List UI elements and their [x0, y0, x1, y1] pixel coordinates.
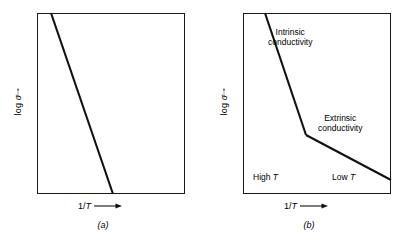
panel-caption-b: (b) — [206, 220, 412, 230]
x-axis-text-b: 1/T — [284, 201, 297, 211]
annotation-intrinsic-conductivity: Intrinsic conductivity — [268, 27, 312, 48]
y-axis-symbol-a: σ — [13, 95, 23, 101]
x-axis-label-b: 1/T — [284, 199, 328, 213]
label-low-temperature-symbol: T — [350, 172, 355, 182]
label-high-temperature-text: High — [253, 172, 273, 182]
annotation-extrinsic-line2: conductivity — [318, 123, 362, 133]
y-axis-prefix-a: log — [13, 100, 23, 115]
annotation-intrinsic-line1: Intrinsic — [268, 27, 312, 37]
panel-b: Intrinsic conductivity Extrinsic conduct… — [206, 0, 412, 246]
label-high-temperature-symbol: T — [273, 172, 278, 182]
panel-caption-a: (a) — [0, 220, 206, 230]
x-axis-prefix-b: 1/ — [284, 201, 292, 211]
curve-a-line — [51, 13, 113, 194]
y-axis-label-a: log σ — [7, 78, 29, 140]
x-axis-prefix-a: 1/ — [78, 201, 86, 211]
annotation-extrinsic-conductivity: Extrinsic conductivity — [318, 113, 362, 134]
label-high-temperature: High T — [253, 172, 278, 182]
curve-b — [243, 13, 391, 194]
annotation-intrinsic-line2: conductivity — [268, 37, 312, 47]
x-axis-arrow-icon-b — [300, 202, 328, 210]
x-axis-symbol-a: T — [86, 201, 92, 211]
y-axis-prefix-b: log — [219, 100, 229, 115]
annotation-extrinsic-line1: Extrinsic — [318, 113, 362, 123]
x-axis-label-a: 1/T — [78, 199, 122, 213]
y-axis-text-b: log σ — [219, 74, 229, 136]
y-axis-label-b: log σ — [213, 78, 235, 140]
label-low-temperature: Low T — [332, 172, 355, 182]
curve-a — [37, 13, 185, 194]
panel-a: log σ 1/T (a) — [0, 0, 206, 246]
label-low-temperature-text: Low — [332, 172, 350, 182]
x-axis-symbol-b: T — [292, 201, 298, 211]
figure-semiconductor-conductivity: log σ 1/T (a) Intrinsic conductivity Ext… — [0, 0, 412, 246]
y-axis-text-a: log σ — [13, 74, 23, 136]
x-axis-text-a: 1/T — [78, 201, 91, 211]
x-axis-arrow-icon-a — [94, 202, 122, 210]
y-axis-symbol-b: σ — [219, 95, 229, 101]
